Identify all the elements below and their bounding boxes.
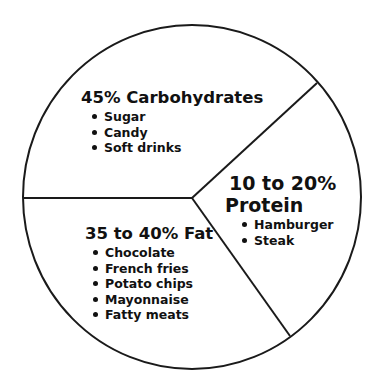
bullet-icon [93,312,98,317]
list-item: Potato chips [93,276,213,292]
bullet-icon [242,238,247,243]
segment-carbohydrates: 45% Carbohydrates Sugar Candy Soft drink… [81,87,263,156]
bullet-icon [92,145,97,150]
list-item: Fatty meats [93,307,213,323]
list-item: Mayonnaise [93,292,213,308]
segment-fat: 35 to 40% Fat Chocolate French fries Pot… [85,223,213,323]
bullet-icon [93,250,98,255]
segment-title-line2: Protein [225,194,336,216]
list-item: Hamburger [242,217,336,233]
list-item: Steak [242,233,336,249]
item-list: Chocolate French fries Potato chips Mayo… [93,245,213,323]
list-item: Candy [92,125,263,141]
list-item: French fries [93,261,213,277]
segment-title: 45% Carbohydrates [81,87,263,109]
list-item: Chocolate [93,245,213,261]
item-list: Sugar Candy Soft drinks [92,109,263,156]
list-item: Soft drinks [92,140,263,156]
segment-title-line1: 10 to 20% [229,172,336,194]
bullet-icon [93,266,98,271]
list-item: Sugar [92,109,263,125]
item-list: Hamburger Steak [242,217,336,248]
bullet-icon [92,114,97,119]
segment-protein: 10 to 20% Protein Hamburger Steak [229,172,336,248]
bullet-icon [93,297,98,302]
bullet-icon [242,222,247,227]
bullet-icon [93,281,98,286]
segment-title: 35 to 40% Fat [85,223,213,245]
bullet-icon [92,130,97,135]
